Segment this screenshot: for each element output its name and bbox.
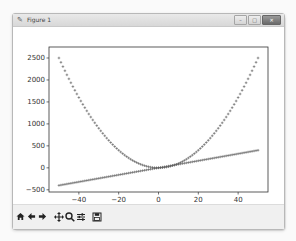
minimize-button[interactable]: – [234, 15, 247, 25]
back-button[interactable] [26, 211, 36, 222]
figure-window: ✎ Figure 1 – □ ✕ −5000500100015002000250… [12, 13, 285, 230]
y-tick-label: 0 [41, 164, 45, 172]
y-tick-label: 500 [32, 142, 45, 150]
save-button[interactable] [92, 211, 102, 222]
sliders-icon [76, 212, 86, 222]
y-tick-label: 1500 [27, 98, 45, 106]
configure-subplots-button[interactable] [76, 211, 86, 222]
zoom-button[interactable] [65, 211, 75, 222]
home-button[interactable] [15, 211, 25, 222]
maximize-button[interactable]: □ [248, 15, 261, 25]
arrow-right-icon [38, 212, 47, 221]
pan-button[interactable] [54, 211, 64, 222]
plot-axes[interactable]: −50005001000150020002500−40−2002040 [13, 27, 284, 205]
x-tick-label: −20 [111, 196, 126, 204]
arrow-left-icon [27, 212, 36, 221]
y-tick-label: 2000 [27, 76, 45, 84]
move-icon [54, 212, 64, 222]
x-tick-label: 20 [194, 196, 203, 204]
home-icon [16, 212, 25, 221]
x-tick-label: 40 [234, 196, 243, 204]
navigation-toolbar [13, 204, 284, 229]
title-bar[interactable]: ✎ Figure 1 – □ ✕ [13, 14, 284, 27]
figure-canvas[interactable]: −50005001000150020002500−40−2002040 [13, 27, 284, 205]
x-tick-label: 0 [156, 196, 160, 204]
x-tick-label: −40 [71, 196, 86, 204]
figure-app-icon: ✎ [17, 16, 25, 24]
window-title: Figure 1 [27, 15, 51, 25]
forward-button[interactable] [37, 211, 47, 222]
y-tick-label: 1000 [27, 120, 45, 128]
window-controls: – □ ✕ [234, 15, 281, 25]
magnifier-icon [65, 212, 75, 222]
floppy-disk-icon [92, 212, 102, 222]
y-tick-label: 2500 [27, 54, 45, 62]
y-tick-label: −500 [26, 186, 45, 194]
close-button[interactable]: ✕ [262, 15, 281, 25]
axes-frame [49, 47, 268, 192]
